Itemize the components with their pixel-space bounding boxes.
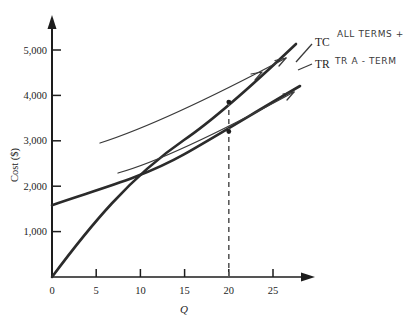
y-tick-label-1000: 1,000 <box>23 226 47 237</box>
x-tick-label-10: 10 <box>135 285 146 296</box>
tr-series-label: TR <box>315 58 330 70</box>
tc-intersection-point <box>226 129 231 134</box>
y-tick-label-5000: 5,000 <box>23 45 47 56</box>
tc-series-label: TC <box>315 36 330 48</box>
cost-revenue-chart: 1,000 2,000 3,000 4,000 5,000 0 5 10 15 … <box>0 0 408 320</box>
y-axis-title: Cost ($) <box>9 147 21 182</box>
chart-background <box>0 0 408 320</box>
x-tick-label-20: 20 <box>224 285 235 296</box>
y-tick-label-3000: 3,000 <box>23 135 47 146</box>
x-axis-title: Q <box>180 303 188 315</box>
y-tick-label-2000: 2,000 <box>23 181 47 192</box>
x-tick-label-5: 5 <box>94 285 99 296</box>
tr-a-term-note: TR A - TERM <box>334 56 397 66</box>
all-terms-note: ALL TERMS + <box>337 29 404 39</box>
tr-intersection-point <box>226 100 231 105</box>
x-tick-label-25: 25 <box>268 285 279 296</box>
x-tick-label-15: 15 <box>179 285 190 296</box>
y-tick-label-4000: 4,000 <box>23 90 47 101</box>
x-tick-label-0: 0 <box>49 285 54 296</box>
chart-figure: 1,000 2,000 3,000 4,000 5,000 0 5 10 15 … <box>0 0 408 320</box>
